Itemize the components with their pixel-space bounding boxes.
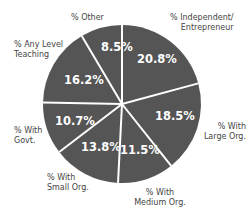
label-other: % Other	[71, 13, 104, 23]
label-govt-line1: % With	[14, 126, 42, 136]
pie-chart	[0, 0, 252, 223]
value-large-org: 18.5%	[155, 109, 195, 123]
label-large-line1: % With	[200, 122, 246, 132]
label-small-org: % With Small Org.	[47, 173, 89, 193]
label-small-line1: % With	[47, 173, 89, 183]
label-large-line2: Large Org.	[200, 132, 246, 142]
label-teaching: % Any Level Teaching	[14, 40, 63, 60]
label-govt: % With Govt.	[14, 126, 42, 146]
label-independent-line1: % Independent/	[170, 13, 234, 23]
label-large-org: % With Large Org.	[200, 122, 246, 142]
label-medium-org: % With Medium Org.	[130, 188, 190, 208]
label-small-line2: Small Org.	[47, 183, 89, 193]
value-small-org: 13.8%	[81, 140, 121, 154]
label-medium-line1: % With	[130, 188, 190, 198]
value-govt: 10.7%	[55, 114, 95, 128]
value-other: 8.5%	[101, 40, 133, 54]
label-independent-line2: Entrepreneur	[170, 23, 234, 33]
label-medium-line2: Medium Org.	[130, 198, 190, 208]
value-teaching: 16.2%	[64, 73, 104, 87]
value-independent: 20.8%	[137, 52, 177, 66]
label-teaching-line1: % Any Level	[14, 40, 63, 50]
label-govt-line2: Govt.	[14, 136, 42, 146]
label-independent: % Independent/ Entrepreneur	[170, 13, 234, 33]
label-teaching-line2: Teaching	[14, 50, 63, 60]
value-medium-org: 11.5%	[120, 143, 160, 157]
